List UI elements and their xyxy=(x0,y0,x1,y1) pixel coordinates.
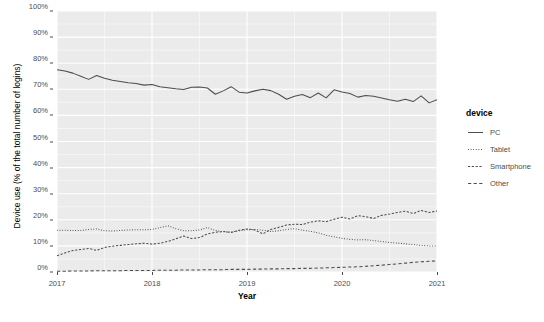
y-tick: 60% xyxy=(0,111,48,120)
y-tick: 70% xyxy=(0,85,48,94)
legend-item-other[interactable]: Other xyxy=(466,175,544,192)
x-tick-mark xyxy=(57,272,58,275)
y-tick-label: 50% xyxy=(0,133,48,142)
legend-item-label: Smartphone xyxy=(490,162,531,171)
legend-key-icon xyxy=(466,158,485,175)
legend-item-label: PC xyxy=(490,128,500,137)
y-tick-mark xyxy=(50,272,53,273)
x-tick-mark xyxy=(152,272,153,275)
y-tick-label: 20% xyxy=(0,211,48,220)
plot-svg xyxy=(57,11,437,272)
legend-item-tablet[interactable]: Tablet xyxy=(466,141,544,158)
chart-figure: 0%10%20%30%40%50%60%70%80%90%100% Device… xyxy=(0,0,544,322)
x-tick-mark xyxy=(437,272,438,275)
y-tick-mark xyxy=(50,115,53,116)
y-tick-mark xyxy=(50,245,53,246)
y-tick-label: 0% xyxy=(0,263,48,272)
y-tick: 10% xyxy=(0,241,48,250)
y-tick-mark xyxy=(50,219,53,220)
y-tick-mark xyxy=(50,11,53,12)
y-axis-ticks: 0%10%20%30%40%50%60%70%80%90%100% xyxy=(0,0,50,322)
x-tick-label: 2020 xyxy=(334,279,351,288)
y-tick-label: 90% xyxy=(0,28,48,37)
y-tick-mark xyxy=(50,141,53,142)
x-tick-label: 2021 xyxy=(429,279,446,288)
y-tick: 40% xyxy=(0,163,48,172)
legend-key-icon xyxy=(466,124,485,141)
y-tick: 100% xyxy=(0,7,48,16)
x-tick-mark xyxy=(342,272,343,275)
y-tick-label: 40% xyxy=(0,159,48,168)
legend-key-icon xyxy=(466,175,485,192)
x-tick-mark xyxy=(247,272,248,275)
x-tick-label: 2018 xyxy=(144,279,161,288)
legend-key-icon xyxy=(466,141,485,158)
y-tick: 0% xyxy=(0,268,48,277)
y-tick: 90% xyxy=(0,33,48,42)
y-tick-label: 70% xyxy=(0,80,48,89)
x-tick-label: 2019 xyxy=(239,279,256,288)
y-tick-label: 80% xyxy=(0,54,48,63)
y-tick-mark xyxy=(50,89,53,90)
legend: device PCTabletSmartphoneOther xyxy=(466,108,544,192)
y-tick-label: 10% xyxy=(0,237,48,246)
y-tick-mark xyxy=(50,167,53,168)
y-tick: 50% xyxy=(0,137,48,146)
x-axis-title: Year xyxy=(57,291,437,301)
y-tick-mark xyxy=(50,37,53,38)
legend-item-label: Tablet xyxy=(490,145,510,154)
legend-item-smartphone[interactable]: Smartphone xyxy=(466,158,544,175)
legend-items: PCTabletSmartphoneOther xyxy=(466,124,544,192)
y-tick-mark xyxy=(50,63,53,64)
plot-panel xyxy=(57,11,437,272)
y-tick: 20% xyxy=(0,215,48,224)
legend-item-pc[interactable]: PC xyxy=(466,124,544,141)
y-tick: 80% xyxy=(0,59,48,68)
y-tick-label: 100% xyxy=(0,2,48,11)
y-axis-title: Device use (% of the total number of log… xyxy=(12,31,22,261)
y-tick-label: 30% xyxy=(0,185,48,194)
legend-item-label: Other xyxy=(490,179,509,188)
y-tick-label: 60% xyxy=(0,106,48,115)
y-tick: 30% xyxy=(0,189,48,198)
y-tick-mark xyxy=(50,193,53,194)
x-tick-label: 2017 xyxy=(49,279,66,288)
legend-title: device xyxy=(466,108,544,118)
